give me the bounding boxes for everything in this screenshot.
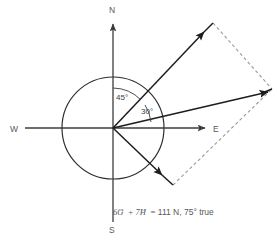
caption-magnitude: 111 N,: [158, 207, 182, 217]
compass-axes: [25, 24, 205, 222]
vector-g-arrow: [113, 32, 204, 128]
dashed-edge-bottom-right: [173, 89, 272, 185]
compass-label-west: W: [10, 124, 18, 134]
vector-h-arrow-accent-icon: →: [140, 206, 147, 214]
caption-equation: 6G→ + 7H→ = 111 N, 75° true: [113, 206, 214, 217]
vector-diagram: N S E W 45° 30° 6G→ + 7H→ = 111 N, 75° t…: [0, 0, 277, 241]
caption-bearing: 75° true: [184, 207, 214, 217]
compass-label-south: S: [109, 225, 115, 235]
vector-arrows: [113, 23, 272, 185]
vector-h-arrow: [113, 128, 162, 175]
caption-line: 6G→ + 7H→ = 111 N, 75° true: [113, 206, 214, 217]
compass-label-east: E: [213, 124, 219, 134]
angle-label-30: 30°: [141, 107, 153, 116]
diagram-canvas: N S E W 45° 30° 6G→ + 7H→ = 111 N, 75° t…: [0, 0, 277, 241]
vector-g-extension: [204, 23, 213, 32]
dashed-edge-top-right: [213, 23, 272, 89]
compass-label-north: N: [109, 5, 115, 15]
resultant-arrow: [113, 92, 268, 128]
vector-g-arrow-accent-icon: →: [118, 206, 125, 214]
parallelogram-dashed-guides: [173, 23, 272, 185]
vector-h-extension: [162, 175, 173, 185]
angle-label-45: 45°: [116, 93, 128, 102]
